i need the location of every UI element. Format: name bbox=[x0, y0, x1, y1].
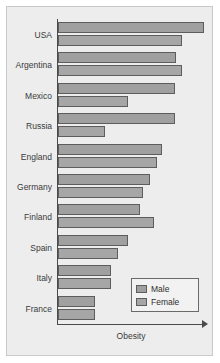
category-label: Germany bbox=[7, 182, 52, 192]
bar-male bbox=[58, 113, 175, 124]
bar-male bbox=[58, 235, 128, 246]
bar-group: Finland bbox=[7, 202, 212, 232]
bar-female bbox=[58, 35, 182, 46]
bar-male bbox=[58, 52, 176, 63]
legend-item-female: Female bbox=[136, 295, 194, 308]
legend-label-male: Male bbox=[151, 284, 169, 294]
category-label: France bbox=[7, 304, 52, 314]
bar-group: USA bbox=[7, 20, 212, 50]
bar-female bbox=[58, 309, 95, 320]
category-label: Mexico bbox=[7, 91, 52, 101]
bar-female bbox=[58, 278, 111, 289]
bar-group: Mexico bbox=[7, 81, 212, 111]
category-label: Spain bbox=[7, 243, 52, 253]
bar-male bbox=[58, 204, 140, 215]
legend-item-male: Male bbox=[136, 282, 194, 295]
chart-frame: USAArgentinaMexicoRussiaEnglandGermanyFi… bbox=[6, 6, 213, 356]
bar-female bbox=[58, 126, 105, 137]
category-label: England bbox=[7, 152, 52, 162]
bar-group: Russia bbox=[7, 111, 212, 141]
plot-area: USAArgentinaMexicoRussiaEnglandGermanyFi… bbox=[7, 7, 212, 355]
bar-male bbox=[58, 296, 95, 307]
bar-male bbox=[58, 265, 111, 276]
bar-female bbox=[58, 65, 182, 76]
chart-figure: USAArgentinaMexicoRussiaEnglandGermanyFi… bbox=[0, 0, 220, 363]
bar-female bbox=[58, 157, 157, 168]
female-swatch-icon bbox=[136, 298, 147, 306]
male-swatch-icon bbox=[136, 285, 147, 293]
bar-group: Spain bbox=[7, 233, 212, 263]
bar-female bbox=[58, 187, 143, 198]
bar-female bbox=[58, 217, 154, 228]
legend-label-female: Female bbox=[151, 297, 179, 307]
bar-group: England bbox=[7, 142, 212, 172]
x-axis-line bbox=[57, 324, 205, 325]
category-label: Russia bbox=[7, 121, 52, 131]
bar-male bbox=[58, 22, 204, 33]
bar-male bbox=[58, 83, 175, 94]
bar-group: Germany bbox=[7, 172, 212, 202]
category-label: Argentina bbox=[7, 60, 52, 70]
bar-male bbox=[58, 174, 150, 185]
bar-group: Argentina bbox=[7, 50, 212, 80]
category-label: Finland bbox=[7, 212, 52, 222]
x-axis-title: Obesity bbox=[57, 331, 205, 341]
chart-legend: Male Female bbox=[131, 278, 199, 312]
bar-male bbox=[58, 144, 162, 155]
category-label: Italy bbox=[7, 273, 52, 283]
category-label: USA bbox=[7, 30, 52, 40]
bar-female bbox=[58, 248, 118, 259]
bar-female bbox=[58, 96, 128, 107]
